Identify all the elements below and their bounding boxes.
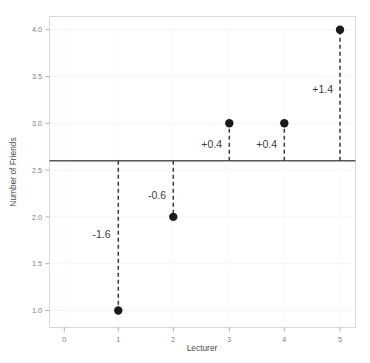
y-tick-label-3-0: 3.0 <box>32 119 42 128</box>
x-tick-label-1: 1 <box>116 335 120 344</box>
x-tick-label-4: 4 <box>282 335 286 344</box>
x-tick-label-3: 3 <box>227 335 231 344</box>
deviation-label-lecturer-4: +0.4 <box>256 138 277 150</box>
y-tick-label-3-5: 3.5 <box>32 72 42 81</box>
x-tick-label-2: 2 <box>171 335 175 344</box>
chart-svg: -1.6 -0.6 +0.4 +0.4 +1.4 4.0 3.5 3.0 2.5… <box>0 0 370 363</box>
data-point-lecturer-5[interactable] <box>336 26 344 34</box>
data-point-lecturer-4[interactable] <box>280 119 288 127</box>
deviation-label-lecturer-2: -0.6 <box>148 189 166 201</box>
deviation-scatter-chart: -1.6 -0.6 +0.4 +0.4 +1.4 4.0 3.5 3.0 2.5… <box>0 0 370 363</box>
x-axis-title: Lecturer <box>187 343 218 353</box>
y-axis: 4.0 3.5 3.0 2.5 2.0 1.5 1.0 <box>32 25 50 315</box>
y-tick-label-4-0: 4.0 <box>32 25 42 34</box>
deviation-label-lecturer-1: -1.6 <box>92 228 110 240</box>
deviation-label-lecturer-5: +1.4 <box>312 83 333 95</box>
deviation-label-lecturer-3: +0.4 <box>201 138 222 150</box>
data-point-lecturer-2[interactable] <box>169 213 177 221</box>
y-tick-label-2-0: 2.0 <box>32 213 42 222</box>
y-tick-label-1-5: 1.5 <box>32 259 42 268</box>
y-axis-title: Number of Friends <box>8 137 18 206</box>
data-point-lecturer-1[interactable] <box>114 306 122 314</box>
y-tick-label-2-5: 2.5 <box>32 166 42 175</box>
plot-panel-background <box>50 17 356 328</box>
x-tick-label-0: 0 <box>62 335 66 344</box>
data-point-lecturer-3[interactable] <box>225 119 233 127</box>
x-tick-label-5: 5 <box>338 335 342 344</box>
x-axis: 0 1 2 3 4 5 <box>62 328 342 345</box>
y-tick-label-1-0: 1.0 <box>32 306 42 315</box>
